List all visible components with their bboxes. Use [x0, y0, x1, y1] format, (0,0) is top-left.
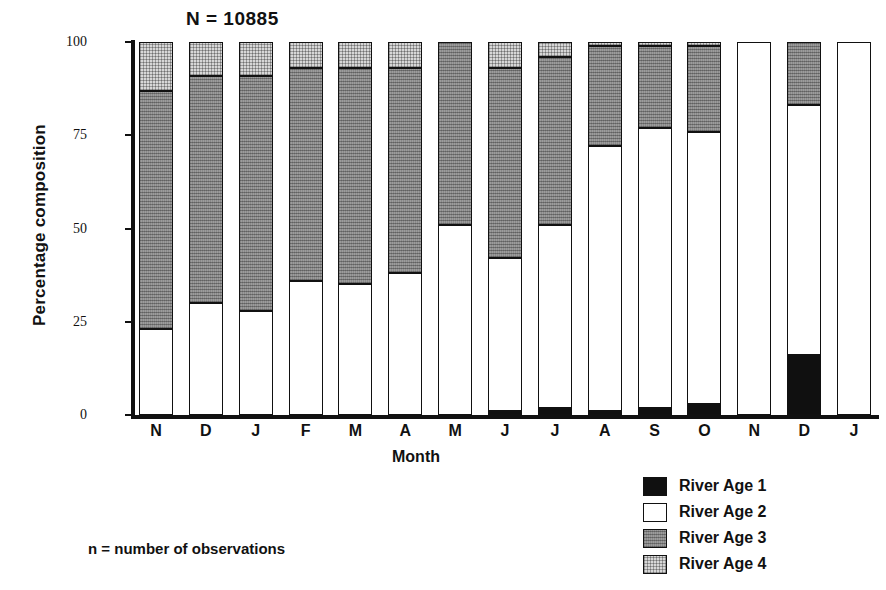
- legend-item[interactable]: River Age 4: [643, 551, 766, 577]
- bar-segment-age3[interactable]: [289, 68, 323, 281]
- bar-column[interactable]: [239, 42, 273, 415]
- bar-segment-age3[interactable]: [588, 46, 622, 147]
- bar-segment-age3[interactable]: [388, 68, 422, 273]
- y-tick-label: 0: [47, 408, 87, 422]
- bar-column[interactable]: [189, 42, 223, 415]
- legend-item[interactable]: River Age 1: [643, 473, 766, 499]
- legend-swatch-age4: [643, 555, 667, 574]
- sample-size-annotation: N = 10885: [186, 8, 279, 30]
- bar-segment-age4[interactable]: [289, 42, 323, 68]
- footnote-text: n = number of observations: [88, 540, 285, 557]
- bar-column[interactable]: [687, 42, 721, 415]
- bar-segment-age3[interactable]: [338, 68, 372, 284]
- x-tick-label: M: [335, 422, 375, 440]
- bar-segment-age4[interactable]: [239, 42, 273, 76]
- x-axis-line: [131, 415, 879, 419]
- bar-column[interactable]: [588, 42, 622, 415]
- bar-column[interactable]: [638, 42, 672, 415]
- x-tick-label: A: [385, 422, 425, 440]
- bar-segment-age3[interactable]: [189, 76, 223, 304]
- x-axis-title: Month: [131, 448, 701, 466]
- bar-segment-age2[interactable]: [687, 132, 721, 404]
- x-tick-label: N: [734, 422, 774, 440]
- bar-column[interactable]: [787, 42, 821, 415]
- x-tick-label: F: [286, 422, 326, 440]
- bar-segment-age3[interactable]: [438, 42, 472, 225]
- legend-item[interactable]: River Age 2: [643, 499, 766, 525]
- bar-segment-age2[interactable]: [388, 273, 422, 415]
- bar-segment-age4[interactable]: [388, 42, 422, 68]
- bar-column[interactable]: [737, 42, 771, 415]
- legend-swatch-age2: [643, 503, 667, 522]
- bar-segment-age3[interactable]: [239, 76, 273, 311]
- x-tick-label: J: [535, 422, 575, 440]
- stacked-bar-chart-figure: Percentage composition 0255075100 Month …: [0, 0, 886, 590]
- bar-segment-age2[interactable]: [588, 146, 622, 411]
- bar-segment-age4[interactable]: [488, 42, 522, 68]
- bar-segment-age3[interactable]: [538, 57, 572, 225]
- bar-segment-age1[interactable]: [588, 411, 622, 415]
- bar-segment-age1[interactable]: [787, 355, 821, 415]
- y-axis-ticks: 0255075100: [0, 0, 131, 590]
- bar-segment-age2[interactable]: [787, 105, 821, 355]
- plot-area: [131, 42, 879, 415]
- bar-segment-age3[interactable]: [787, 42, 821, 105]
- legend-label: River Age 4: [679, 555, 766, 573]
- x-tick-label: J: [236, 422, 276, 440]
- bar-column[interactable]: [388, 42, 422, 415]
- bar-segment-age4[interactable]: [588, 42, 622, 46]
- bar-column[interactable]: [338, 42, 372, 415]
- bar-segment-age2[interactable]: [488, 258, 522, 411]
- bar-column[interactable]: [538, 42, 572, 415]
- bar-segment-age1[interactable]: [488, 411, 522, 415]
- bar-segment-age3[interactable]: [139, 91, 173, 330]
- bar-segment-age4[interactable]: [189, 42, 223, 76]
- bar-segment-age3[interactable]: [488, 68, 522, 258]
- bar-segment-age1[interactable]: [687, 404, 721, 415]
- bar-column[interactable]: [837, 42, 871, 415]
- y-tick-label: 50: [47, 222, 87, 236]
- x-tick-label: J: [834, 422, 874, 440]
- bar-segment-age2[interactable]: [538, 225, 572, 408]
- x-tick-label: D: [186, 422, 226, 440]
- legend-label: River Age 1: [679, 477, 766, 495]
- x-tick-label: D: [784, 422, 824, 440]
- x-tick-label: O: [684, 422, 724, 440]
- bar-segment-age2[interactable]: [638, 128, 672, 408]
- x-tick-label: A: [585, 422, 625, 440]
- bar-column[interactable]: [488, 42, 522, 415]
- bar-segment-age2[interactable]: [438, 225, 472, 415]
- bar-column[interactable]: [139, 42, 173, 415]
- bar-column[interactable]: [289, 42, 323, 415]
- bar-segment-age1[interactable]: [638, 408, 672, 415]
- bar-segment-age4[interactable]: [139, 42, 173, 90]
- y-tick-label: 75: [47, 128, 87, 142]
- legend-item[interactable]: River Age 3: [643, 525, 766, 551]
- x-tick-label: S: [635, 422, 675, 440]
- legend-label: River Age 3: [679, 529, 766, 547]
- bar-segment-age2[interactable]: [338, 284, 372, 415]
- legend: River Age 1River Age 2River Age 3River A…: [643, 473, 766, 577]
- legend-swatch-age1: [643, 477, 667, 496]
- y-tick-label: 100: [47, 35, 87, 49]
- y-tick-label: 25: [47, 315, 87, 329]
- legend-label: River Age 2: [679, 503, 766, 521]
- bar-segment-age4[interactable]: [338, 42, 372, 68]
- bar-column[interactable]: [438, 42, 472, 415]
- x-tick-label: N: [136, 422, 176, 440]
- x-tick-label: M: [435, 422, 475, 440]
- bar-segment-age3[interactable]: [687, 46, 721, 132]
- bar-segment-age3[interactable]: [638, 46, 672, 128]
- bar-segment-age2[interactable]: [189, 303, 223, 415]
- bar-segment-age4[interactable]: [638, 42, 672, 46]
- bar-segment-age2[interactable]: [737, 42, 771, 415]
- bar-segment-age2[interactable]: [239, 311, 273, 415]
- legend-swatch-age3: [643, 529, 667, 548]
- bar-segment-age2[interactable]: [289, 281, 323, 415]
- bar-segment-age1[interactable]: [538, 408, 572, 415]
- x-tick-label: J: [485, 422, 525, 440]
- bar-segment-age2[interactable]: [837, 42, 871, 415]
- bar-segment-age2[interactable]: [139, 329, 173, 415]
- bar-segment-age4[interactable]: [538, 42, 572, 57]
- bar-segment-age4[interactable]: [687, 42, 721, 46]
